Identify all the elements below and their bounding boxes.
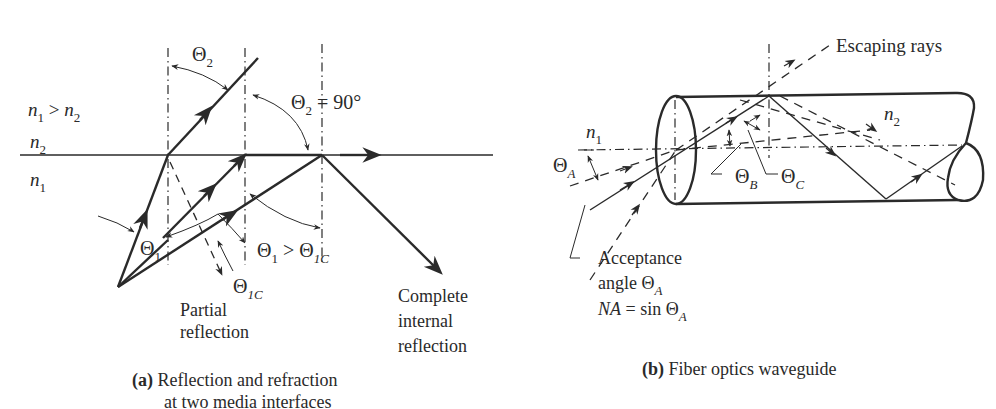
label-theta2: Θ2 [192, 44, 213, 64]
n1-subscript: 1 [38, 110, 45, 125]
caption-a-text1: Reflection and refraction [158, 370, 338, 390]
theta1-subscript: 1 [271, 251, 278, 266]
theta-c-subscript: C [795, 177, 804, 192]
acceptance-angle-text: angle Θ [598, 273, 654, 293]
n2-symbol: n [64, 99, 74, 120]
equals-90-degrees: = 90° [312, 91, 361, 113]
n1-subscript: 1 [40, 180, 47, 195]
n2-symbol: n [884, 103, 894, 124]
diagram-b-fiber-waveguide [570, 44, 983, 280]
label-theta-a: ΘA [553, 155, 575, 175]
n1-symbol: n [586, 121, 596, 142]
partial-reflection-line2: reflection [180, 320, 249, 345]
theta-symbol: Θ [291, 91, 305, 113]
label-theta1c: Θ1C [233, 276, 263, 296]
n1-symbol: n [30, 169, 40, 190]
caption-a-line1: (a) Reflection and refraction [132, 369, 337, 391]
label-escaping-rays: Escaping rays [836, 36, 942, 55]
caption-b-tag: (b) [642, 359, 664, 379]
label-theta-c: ΘC [781, 166, 804, 186]
label-theta-b: ΘB [735, 166, 757, 186]
n1-symbol: n [28, 99, 38, 120]
theta1c-subscript: 1C [247, 287, 262, 302]
label-n1-greater-n2: n1 > n2 [28, 100, 80, 119]
label-theta2-equals-90: Θ2 = 90° [291, 92, 361, 112]
label-partial-reflection: Partial reflection [180, 298, 249, 345]
n2-subscript: 2 [40, 142, 47, 157]
na-symbol: NA [598, 299, 621, 319]
escaping-rays [570, 45, 955, 280]
caption-b-text: Fiber optics waveguide [669, 359, 837, 379]
gt-symbol: > [44, 99, 64, 120]
gt-symbol: > [278, 239, 299, 261]
acceptance-line2: angle ΘA [598, 271, 687, 297]
label-complete-internal-reflection: Complete internal reflection [398, 284, 468, 359]
theta-symbol: Θ [781, 165, 795, 187]
theta1c-subscript: 1C [314, 251, 329, 266]
label-medium-n1: n1 [30, 170, 46, 189]
n2-subscript: 2 [894, 114, 901, 129]
label-n2-b: n2 [884, 104, 900, 123]
theta-symbol: Θ [299, 239, 313, 261]
theta-symbol: Θ [257, 239, 271, 261]
ray-refracted [118, 58, 258, 287]
theta-b-subscript: B [749, 177, 757, 192]
numerical-aperture-line: NA = sin ΘA [598, 297, 687, 323]
theta-symbol: Θ [233, 275, 247, 297]
caption-a-line2: at two media interfaces [132, 391, 337, 409]
optics-diagram-canvas [0, 0, 996, 409]
na-equation: = sin Θ [621, 299, 679, 319]
label-n1-b: n1 [586, 122, 602, 141]
guided-ray [590, 96, 962, 210]
theta2-subscript: 2 [305, 103, 312, 118]
label-theta1: Θ1 [140, 238, 161, 258]
theta-a-subscript: A [567, 166, 575, 181]
cir-line3: reflection [398, 334, 468, 359]
acceptance-subscript: A [654, 283, 662, 298]
theta2-subscript: 2 [206, 55, 213, 70]
n1-subscript: 1 [596, 132, 603, 147]
theta-symbol: Θ [192, 43, 206, 65]
theta-symbol: Θ [553, 154, 567, 176]
n2-subscript: 2 [74, 110, 81, 125]
label-medium-n2: n2 [30, 132, 46, 151]
theta1-subscript: 1 [154, 249, 161, 264]
theta-symbol: Θ [140, 237, 154, 259]
caption-a: (a) Reflection and refraction at two med… [132, 369, 337, 409]
acceptance-line1: Acceptance [598, 246, 687, 271]
fiber-axis [578, 145, 962, 150]
fiber-cut-end [947, 93, 983, 201]
escaping-arrowheads [620, 62, 873, 215]
label-acceptance-angle: Acceptance angle ΘA NA = sin ΘA [598, 246, 687, 323]
caption-b: (b) Fiber optics waveguide [642, 358, 836, 380]
label-theta1-gt-theta1c: Θ1 > Θ1C [257, 240, 329, 260]
caption-a-tag: (a) [132, 370, 153, 390]
cir-line1: Complete [398, 284, 468, 309]
cir-line2: internal [398, 309, 468, 334]
theta-symbol: Θ [735, 165, 749, 187]
n2-symbol: n [30, 131, 40, 152]
ray-partial-reflection [170, 162, 222, 275]
ray-total-internal-reflection [118, 155, 436, 287]
na-subscript: A [679, 309, 687, 324]
